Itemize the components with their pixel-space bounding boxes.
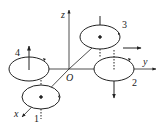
- rotor-3-center-dot: [99, 36, 102, 39]
- z-axis-label: z: [60, 9, 65, 20]
- y-axis-label: y: [142, 56, 148, 67]
- rotor-1: [22, 85, 60, 119]
- rotor-3-label: 3: [122, 19, 127, 30]
- rotor-3: [80, 16, 120, 58]
- rotor-2: [94, 50, 134, 98]
- rotor-1-center-dot: [40, 96, 43, 99]
- origin-label: O: [66, 72, 73, 83]
- rotor-1-label: 1: [34, 113, 39, 124]
- rotor-4-label: 4: [15, 47, 20, 58]
- arm-3: [69, 48, 92, 69]
- rotor-2-label: 2: [132, 77, 137, 88]
- x-axis-label: x: [13, 108, 19, 119]
- quadrotor-diagram: z y x O 3 2 4 1: [0, 0, 166, 127]
